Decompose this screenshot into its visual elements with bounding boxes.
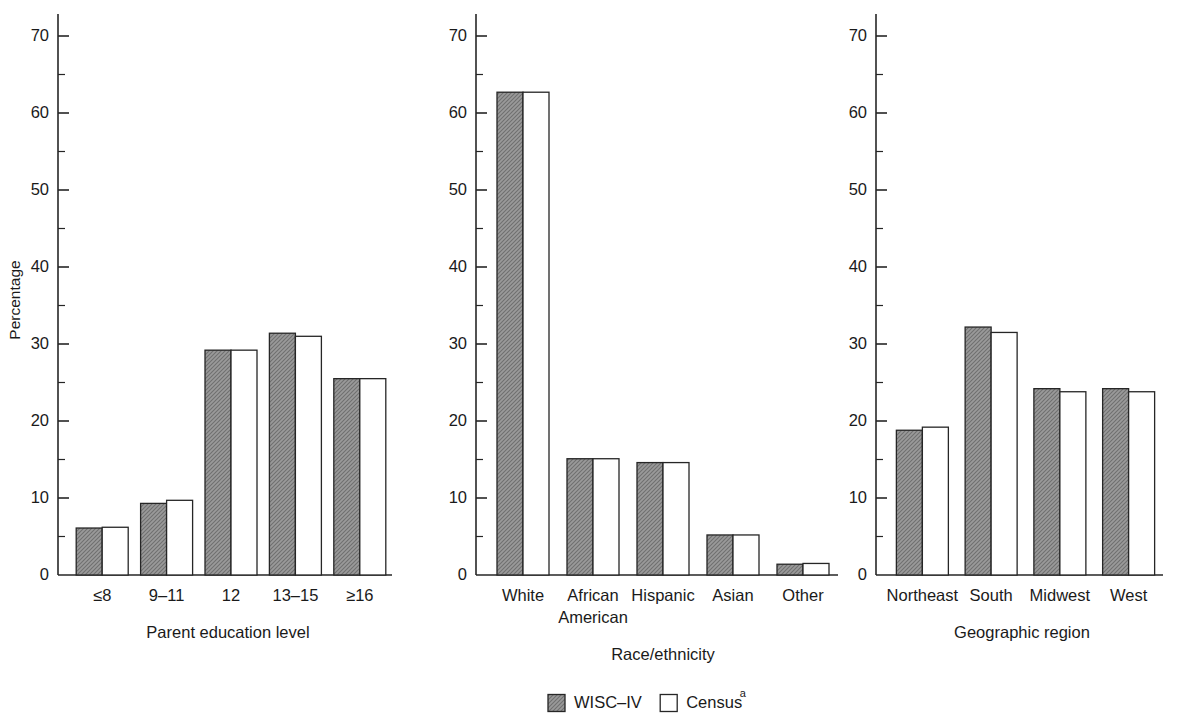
bar-census-0 [523, 92, 549, 575]
x-axis-title: Parent education level [146, 623, 309, 641]
x-tick-label: White [502, 586, 544, 604]
bar-census-1 [167, 500, 193, 575]
bar-census-2 [663, 463, 689, 575]
y-tick-label: 20 [449, 411, 467, 429]
x-tick-label: West [1110, 586, 1148, 604]
x-tick-label: Other [782, 586, 824, 604]
y-tick-label: 0 [40, 565, 49, 583]
y-tick-label: 60 [31, 103, 49, 121]
bar-census-0 [922, 427, 948, 575]
bar-wisc-3 [269, 333, 295, 575]
x-tick-label: Midwest [1030, 586, 1091, 604]
x-tick-label: American [558, 608, 628, 626]
chart-panel-1: 010203040506070≤89–111213–15≥16Parent ed… [6, 14, 392, 641]
y-tick-label: 30 [31, 334, 49, 352]
chart-panel-2: 010203040506070WhiteAfricanAmericanHispa… [449, 14, 838, 663]
x-axis-title: Race/ethnicity [611, 645, 715, 663]
y-tick-label: 40 [449, 257, 467, 275]
bar-wisc-4 [334, 379, 360, 575]
bar-wisc-2 [637, 463, 663, 575]
panels-group: 010203040506070≤89–111213–15≥16Parent ed… [6, 14, 1163, 663]
bar-census-4 [803, 563, 829, 575]
bar-census-3 [1129, 392, 1155, 575]
legend-superscript-1: a [740, 687, 747, 699]
bar-wisc-1 [567, 459, 593, 575]
x-tick-label: African [567, 586, 618, 604]
bar-wisc-2 [205, 350, 231, 575]
bar-census-1 [593, 459, 619, 575]
legend-label-census: Census [686, 693, 742, 711]
legend-label-wisc: WISC–IV [574, 693, 642, 711]
chart-legend: WISC–IVCensusa [548, 687, 747, 712]
figure-container: 010203040506070≤89–111213–15≥16Parent ed… [0, 0, 1177, 726]
bar-census-0 [102, 527, 128, 575]
legend-swatch-wisc [548, 695, 565, 712]
y-tick-label: 70 [31, 26, 49, 44]
bar-census-2 [231, 350, 257, 575]
bar-chart-figure: 010203040506070≤89–111213–15≥16Parent ed… [0, 0, 1177, 726]
y-tick-label: 10 [31, 488, 49, 506]
bar-wisc-0 [76, 528, 102, 575]
bar-census-2 [1060, 392, 1086, 575]
bar-wisc-0 [896, 430, 922, 575]
y-tick-label: 60 [849, 103, 867, 121]
x-tick-label: 12 [222, 586, 240, 604]
x-tick-label: Northeast [887, 586, 959, 604]
y-tick-label: 0 [858, 565, 867, 583]
y-tick-label: 70 [849, 26, 867, 44]
y-tick-label: 30 [849, 334, 867, 352]
x-tick-label: South [970, 586, 1013, 604]
y-tick-label: 40 [31, 257, 49, 275]
chart-panel-3: 010203040506070NortheastSouthMidwestWest… [849, 14, 1163, 641]
bar-census-4 [360, 379, 386, 575]
x-tick-label: Hispanic [631, 586, 694, 604]
y-tick-label: 40 [849, 257, 867, 275]
x-tick-label: ≥16 [346, 586, 373, 604]
y-tick-label: 50 [31, 180, 49, 198]
bar-wisc-3 [707, 535, 733, 575]
legend-swatch-census [660, 695, 677, 712]
y-tick-label: 60 [449, 103, 467, 121]
y-axis-title: Percentage [6, 260, 23, 339]
bar-wisc-4 [777, 564, 803, 575]
y-tick-label: 20 [849, 411, 867, 429]
bar-wisc-1 [965, 327, 991, 575]
bar-census-3 [295, 336, 321, 575]
bar-wisc-1 [141, 503, 167, 575]
x-tick-label: 13–15 [272, 586, 318, 604]
x-tick-label: ≤8 [93, 586, 111, 604]
bar-wisc-2 [1034, 389, 1060, 575]
x-axis-title: Geographic region [954, 623, 1090, 641]
y-tick-label: 50 [449, 180, 467, 198]
y-tick-label: 30 [449, 334, 467, 352]
bar-census-3 [733, 535, 759, 575]
bar-census-1 [991, 332, 1017, 575]
y-tick-label: 0 [458, 565, 467, 583]
bar-wisc-3 [1103, 389, 1129, 575]
y-tick-label: 50 [849, 180, 867, 198]
x-tick-label: Asian [712, 586, 753, 604]
y-tick-label: 20 [31, 411, 49, 429]
y-tick-label: 10 [849, 488, 867, 506]
y-tick-label: 10 [449, 488, 467, 506]
bar-wisc-0 [497, 92, 523, 575]
x-tick-label: 9–11 [149, 586, 184, 604]
y-tick-label: 70 [449, 26, 467, 44]
